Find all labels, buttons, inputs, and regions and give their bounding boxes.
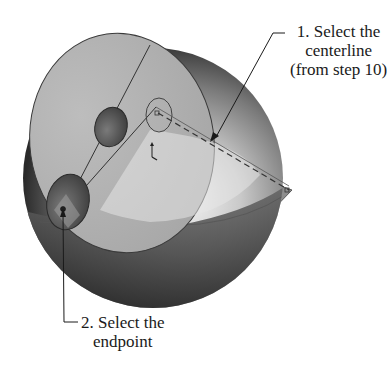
callout-1-line-1: 1. Select the (290, 22, 387, 41)
callout-2-line-2: endpoint (81, 332, 165, 351)
callout-select-centerline: 1. Select the centerline (from step 10) (290, 22, 387, 79)
callout-2-line-1: 2. Select the (81, 313, 165, 332)
callout-1-line-3: (from step 10) (290, 60, 387, 79)
callout-select-endpoint: 2. Select the endpoint (81, 313, 165, 351)
callout-1-line-2: centerline (290, 41, 387, 60)
